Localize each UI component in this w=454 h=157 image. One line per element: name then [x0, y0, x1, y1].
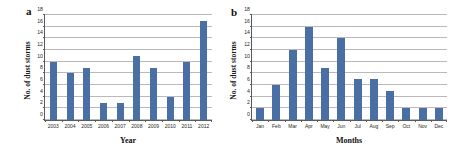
y-tick-label: 12	[244, 41, 250, 47]
bar	[67, 73, 74, 120]
bar	[200, 21, 207, 120]
bar	[337, 38, 345, 120]
y-tick-label: 0	[40, 111, 43, 117]
bar-slot	[301, 15, 317, 120]
bar-slot	[162, 15, 179, 120]
y-tick-label: 12	[37, 41, 43, 47]
bar	[386, 91, 394, 120]
x-tick-label: 2004	[62, 120, 79, 129]
y-tick-label: 14	[244, 29, 250, 35]
bar-slot	[382, 15, 398, 120]
bar	[256, 108, 264, 120]
x-tick-label: Feb	[268, 120, 284, 129]
x-tick-label: 2005	[78, 120, 95, 129]
bar	[50, 62, 57, 120]
bar-slot	[285, 15, 301, 120]
bar-slot	[398, 15, 414, 120]
y-tick-label: 2	[40, 99, 43, 105]
y-tick-label: 4	[247, 88, 250, 94]
x-tick-label: Jun	[333, 120, 349, 129]
bar	[419, 108, 427, 120]
panel-b-plot-area: 024681012141618 JanFebMarAprMayJunJulAug…	[251, 15, 447, 121]
panel-a-y-axis-label-text: No. of dust storms	[23, 41, 32, 99]
bar-slot	[317, 15, 333, 120]
bar	[117, 103, 124, 120]
y-tick-label: 8	[247, 64, 250, 70]
bar-slot	[195, 15, 212, 120]
panel-a-x-axis-label: Year	[44, 136, 212, 145]
y-tick-label: 14	[37, 29, 43, 35]
bar	[83, 68, 90, 121]
y-tick-label: 18	[244, 6, 250, 12]
bar	[305, 27, 313, 120]
x-tick-label: Aug	[366, 120, 382, 129]
bar-slot	[78, 15, 95, 120]
bar-slot	[45, 15, 62, 120]
panel-a-x-tick-labels: 2003200420052006200720082009201020112012	[45, 120, 212, 129]
bar-slot	[366, 15, 382, 120]
bar	[321, 68, 329, 121]
panel-a-letter: a	[26, 5, 32, 17]
x-tick-label: 2007	[112, 120, 129, 129]
y-tick-label: 10	[37, 53, 43, 59]
panel-b-x-tick-labels: JanFebMarAprMayJunJulAugSepOctNovDec	[252, 120, 447, 129]
x-tick-label: Jul	[350, 120, 366, 129]
y-tick-label: 8	[40, 64, 43, 70]
x-tick-label: 2010	[162, 120, 179, 129]
x-tick-label: Sep	[382, 120, 398, 129]
panel-b-y-axis-label-text: No. of dust storms	[229, 41, 238, 99]
panel-b-x-axis-label: Months	[251, 136, 447, 145]
bar	[289, 50, 297, 120]
x-tick-label: Jan	[252, 120, 268, 129]
bar-slot	[179, 15, 196, 120]
x-tick-label: Apr	[301, 120, 317, 129]
bar-slot	[350, 15, 366, 120]
bar	[370, 79, 378, 120]
x-tick-label: 2006	[95, 120, 112, 129]
x-tick-label: Nov	[415, 120, 431, 129]
bar	[354, 79, 362, 120]
y-tick-label: 6	[247, 76, 250, 82]
panel-b: b No. of dust storms 024681012141618 Jan…	[227, 0, 454, 157]
x-tick-label: Dec	[431, 120, 447, 129]
y-tick-label: 2	[247, 99, 250, 105]
x-tick-label: May	[317, 120, 333, 129]
x-tick-label: 2011	[179, 120, 196, 129]
y-tick-label: 6	[40, 76, 43, 82]
panel-b-bars	[252, 15, 447, 120]
y-tick-label: 10	[244, 53, 250, 59]
bar-slot	[333, 15, 349, 120]
dust-storms-figure: a No. of dust storms 024681012141618 200…	[0, 0, 454, 157]
x-tick-label: 2008	[129, 120, 146, 129]
y-tick-label: 4	[40, 88, 43, 94]
bar	[435, 108, 443, 120]
x-tick-label: Mar	[285, 120, 301, 129]
bar-slot	[252, 15, 268, 120]
y-tick-label: 18	[37, 6, 43, 12]
bar-slot	[145, 15, 162, 120]
panel-a: a No. of dust storms 024681012141618 200…	[0, 0, 227, 157]
bar-slot	[268, 15, 284, 120]
bar	[133, 56, 140, 120]
y-tick-label: 16	[244, 18, 250, 24]
y-tick-label: 16	[37, 18, 43, 24]
bar-slot	[62, 15, 79, 120]
bar	[150, 68, 157, 121]
panel-b-letter: b	[231, 6, 237, 18]
x-tick-label: Oct	[398, 120, 414, 129]
bar-slot	[129, 15, 146, 120]
y-tick-label: 0	[247, 111, 250, 117]
x-tick-label: 2009	[145, 120, 162, 129]
panel-a-y-axis-label: No. of dust storms	[20, 14, 34, 126]
bar	[167, 97, 174, 120]
x-tick-label: 2012	[195, 120, 212, 129]
bar	[272, 85, 280, 120]
bar-slot	[112, 15, 129, 120]
bar-slot	[431, 15, 447, 120]
panel-a-plot-area: 024681012141618 200320042005200620072008…	[44, 15, 212, 121]
x-tick-label: 2003	[45, 120, 62, 129]
bar	[402, 108, 410, 120]
bar	[100, 103, 107, 120]
panel-b-y-axis-label: No. of dust storms	[226, 14, 240, 126]
panel-a-bars	[45, 15, 212, 120]
